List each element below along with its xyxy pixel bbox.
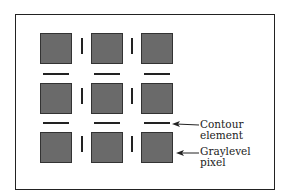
contour-element-horizontal bbox=[43, 73, 69, 75]
graylevel-pixel bbox=[141, 132, 173, 163]
contour-label-line2: element bbox=[200, 130, 243, 141]
contour-element-vertical bbox=[81, 136, 83, 152]
contour-element-vertical bbox=[131, 136, 133, 152]
graylevel-label-line2: pixel bbox=[200, 157, 226, 168]
graylevel-pixel bbox=[40, 132, 72, 163]
contour-element-vertical bbox=[81, 38, 83, 54]
graylevel-pixel bbox=[91, 33, 123, 64]
contour-element-horizontal bbox=[94, 122, 120, 124]
contour-element-horizontal bbox=[94, 73, 120, 75]
contour-element-horizontal bbox=[144, 73, 170, 75]
graylevel-pixel bbox=[91, 83, 123, 114]
contour-element-horizontal bbox=[144, 122, 170, 124]
contour-element-vertical bbox=[131, 88, 133, 104]
graylevel-pixel bbox=[91, 132, 123, 163]
graylevel-pixel bbox=[40, 33, 72, 64]
arrow-left-icon bbox=[176, 149, 200, 157]
graylevel-pixel bbox=[40, 83, 72, 114]
graylevel-pixel bbox=[141, 33, 173, 64]
contour-element-vertical bbox=[131, 38, 133, 54]
contour-element-vertical bbox=[81, 88, 83, 104]
contour-element-horizontal bbox=[43, 122, 69, 124]
graylevel-pixel bbox=[141, 83, 173, 114]
arrow-left-icon bbox=[172, 120, 200, 128]
